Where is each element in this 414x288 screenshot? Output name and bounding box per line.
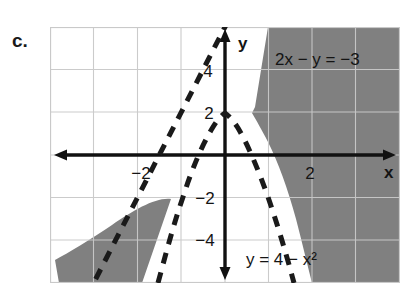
y-axis-label: y <box>238 34 248 53</box>
tick-y-neg2: −2 <box>195 189 214 208</box>
tick-x-2: 2 <box>305 164 314 183</box>
problem-label: c. <box>12 30 28 52</box>
parabola-equation-label: y = 4 − x² <box>246 250 317 269</box>
x-axis-label: x <box>384 163 394 182</box>
tick-y-2: 2 <box>204 104 213 123</box>
graph-canvas: 4 2 −2 −4 −2 2 y x 2x − y = −3 y = 4 − x… <box>50 27 400 283</box>
line-equation-label: 2x − y = −3 <box>275 50 360 69</box>
tick-y-4: 4 <box>203 62 212 81</box>
figure-root: c. <box>0 0 414 288</box>
tick-y-neg4: −4 <box>195 231 214 250</box>
tick-x-neg2: −2 <box>131 164 150 183</box>
